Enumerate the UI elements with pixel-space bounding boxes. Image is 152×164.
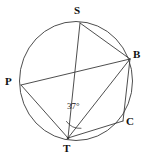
- point-label-C: C: [126, 116, 134, 127]
- geometry-canvas: [0, 0, 152, 164]
- geometry-figure: S B C T P 37°: [0, 0, 152, 164]
- angle-arc-STB: [66, 121, 81, 128]
- vertex-dot-T: [67, 137, 70, 140]
- chord-T-B: [68, 59, 130, 138]
- chord-S-T: [68, 23, 80, 138]
- chord-T-C: [68, 121, 123, 138]
- point-label-T: T: [63, 143, 70, 154]
- chord-B-C: [123, 59, 130, 121]
- point-label-S: S: [74, 5, 80, 16]
- chord-S-B: [80, 23, 130, 59]
- point-label-P: P: [5, 76, 12, 87]
- point-label-B: B: [133, 49, 140, 60]
- angle-label-STB: 37°: [67, 102, 80, 111]
